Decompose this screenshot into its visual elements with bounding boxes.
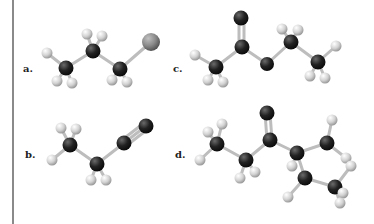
hydrogen-atom	[338, 188, 349, 199]
carbon-atom	[284, 35, 299, 50]
oxygen-atom	[234, 11, 249, 26]
hydrogen-atom	[203, 127, 214, 138]
halogen-atom	[142, 33, 160, 51]
carbon-atom	[235, 40, 250, 55]
hydrogen-atom	[190, 50, 201, 61]
hydrogen-atom	[305, 71, 316, 82]
hydrogen-atom	[346, 161, 357, 172]
carbon-atom	[298, 171, 313, 186]
carbon-atom	[239, 153, 254, 168]
hydrogen-atom	[250, 167, 261, 178]
hydrogen-atom	[327, 115, 338, 126]
oxygen-atom	[260, 57, 274, 71]
molecule-a	[47, 34, 151, 83]
carbon-atom	[290, 146, 305, 161]
carbon-atom	[90, 157, 105, 172]
hydrogen-atom	[107, 75, 118, 86]
hydrogen-atom	[203, 75, 214, 86]
hydrogen-atom	[287, 161, 298, 172]
hydrogen-atom	[42, 48, 53, 59]
carbon-atom	[311, 55, 326, 70]
hydrogen-atom	[86, 175, 97, 186]
nitrogen-atom	[139, 119, 154, 134]
hydrogen-atom	[277, 24, 288, 35]
hydrogen-atom	[283, 192, 294, 203]
hydrogen-atom	[235, 173, 246, 184]
hydrogen-atom	[47, 155, 58, 166]
hydrogen-atom	[335, 198, 346, 209]
hydrogen-atom	[122, 77, 133, 88]
carbon-atom	[86, 44, 101, 59]
carbon-atom	[117, 136, 132, 151]
molecule-d-atoms	[195, 106, 357, 209]
carbon-atom	[113, 62, 128, 77]
hydrogen-atom	[217, 119, 228, 130]
hydrogen-atom	[82, 29, 93, 40]
hydrogen-atom	[52, 76, 63, 87]
carbon-atom	[263, 133, 278, 148]
hydrogen-atom	[97, 31, 108, 42]
hydrogen-atom	[67, 78, 78, 89]
molecule-figure	[0, 0, 374, 224]
hydrogen-atom	[320, 73, 331, 84]
hydrogen-atom	[195, 155, 206, 166]
molecule-a-atoms	[42, 29, 161, 89]
carbon-atom	[209, 60, 224, 75]
hydrogen-atom	[293, 25, 304, 36]
hydrogen-atom	[101, 175, 112, 186]
hydrogen-atom	[56, 123, 67, 134]
hydrogen-atom	[218, 77, 229, 88]
carbon-atom	[63, 138, 78, 153]
hydrogen-atom	[331, 41, 342, 52]
molecule-c-atoms	[190, 11, 342, 88]
oxygen-atom	[260, 106, 275, 121]
carbon-atom	[59, 61, 74, 76]
carbon-atom	[210, 137, 225, 152]
carbon-atom	[320, 136, 335, 151]
hydrogen-atom	[71, 124, 82, 135]
